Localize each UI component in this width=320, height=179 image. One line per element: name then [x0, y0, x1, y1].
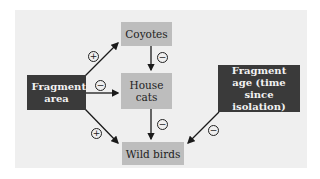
sign-coyotes-cats: − — [157, 52, 168, 63]
node-wild-birds-label: Wild birds — [126, 148, 181, 160]
sign-area-cats: − — [95, 80, 106, 91]
node-house-cats-label: House cats — [127, 79, 167, 103]
sign-area-coyotes: + — [88, 51, 99, 62]
node-fragment-age: Fragment age (time since isolation) — [218, 65, 300, 112]
node-fragment-age-label: Fragment age (time since isolation) — [222, 65, 296, 113]
sign-cats-birds: − — [157, 119, 168, 130]
arrow-area-to-birds — [85, 109, 118, 143]
sign-age-birds: − — [208, 125, 219, 136]
node-coyotes: Coyotes — [121, 22, 172, 46]
node-fragment-area: Fragment area — [27, 75, 86, 110]
node-fragment-area-label: Fragment area — [32, 81, 82, 105]
node-wild-birds: Wild birds — [122, 142, 184, 165]
sign-area-birds: + — [91, 128, 102, 139]
node-coyotes-label: Coyotes — [125, 28, 167, 40]
node-house-cats: House cats — [121, 73, 172, 109]
